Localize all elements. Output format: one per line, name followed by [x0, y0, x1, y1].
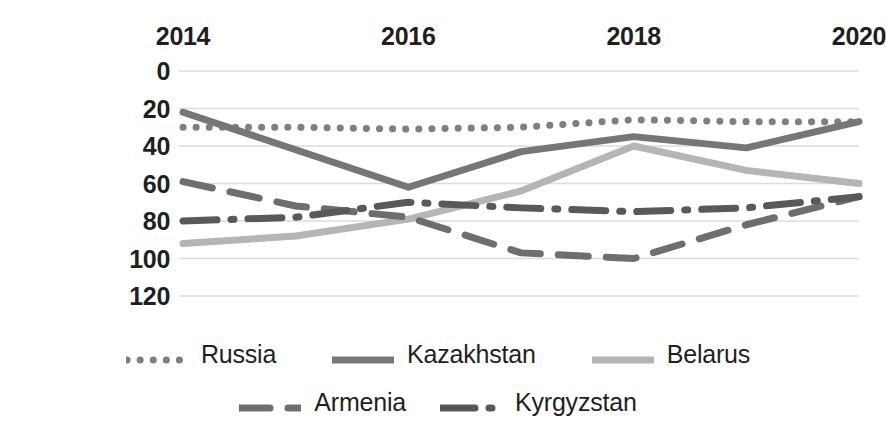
legend-swatch-belarus — [592, 350, 654, 358]
y-tick-label: 100 — [10, 244, 170, 273]
y-tick-label: 0 — [10, 57, 170, 86]
legend-label: Kyrgyzstan — [515, 388, 637, 417]
legend-swatch-russia — [126, 350, 188, 358]
series-line-belarus — [183, 146, 859, 244]
x-tick-label: 2016 — [381, 22, 435, 51]
x-tick-label: 2018 — [606, 22, 660, 51]
y-tick-label: 80 — [10, 207, 170, 236]
legend-label: Belarus — [667, 340, 750, 369]
legend-label: Russia — [201, 340, 276, 369]
series-line-russia — [183, 120, 859, 129]
y-tick-label: 40 — [10, 132, 170, 161]
legend-swatch-kyrgyzstan — [440, 398, 502, 406]
legend-item-armenia[interactable]: Armenia — [239, 388, 406, 417]
chart-legend: RussiaKazakhstanBelarusArmeniaKyrgyzstan — [0, 330, 876, 430]
y-tick-label: 20 — [10, 94, 170, 123]
legend-label: Kazakhstan — [407, 340, 536, 369]
legend-item-kazakhstan[interactable]: Kazakhstan — [332, 340, 536, 369]
legend-swatch-armenia — [239, 398, 301, 406]
legend-label: Armenia — [314, 388, 406, 417]
y-tick-label: 60 — [10, 169, 170, 198]
legend-row: RussiaKazakhstanBelarus — [0, 330, 876, 378]
y-tick-label: 120 — [10, 282, 170, 311]
legend-row: ArmeniaKyrgyzstan — [0, 378, 876, 426]
x-tick-label: 2014 — [156, 22, 210, 51]
legend-swatch-kazakhstan — [332, 350, 394, 358]
x-tick-label: 2020 — [832, 22, 886, 51]
legend-item-russia[interactable]: Russia — [126, 340, 276, 369]
legend-item-kyrgyzstan[interactable]: Kyrgyzstan — [440, 388, 637, 417]
legend-item-belarus[interactable]: Belarus — [592, 340, 750, 369]
